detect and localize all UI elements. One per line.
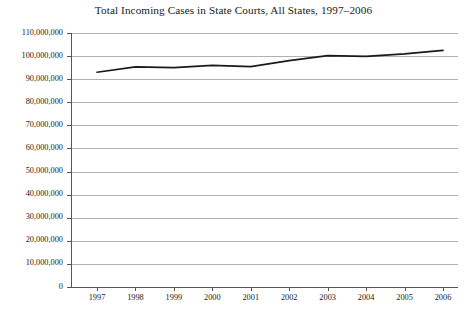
x-tick-label: 2001 bbox=[229, 294, 273, 302]
y-tick-label: 20,000,000 bbox=[0, 236, 63, 244]
y-tick-label: 50,000,000 bbox=[0, 167, 63, 175]
y-tick-label: 30,000,000 bbox=[0, 213, 63, 221]
y-tick-label: 90,000,000 bbox=[0, 75, 63, 83]
data-series-line bbox=[97, 50, 443, 72]
y-tick-label: 60,000,000 bbox=[0, 144, 63, 152]
y-tick-label: 100,000,000 bbox=[0, 52, 63, 60]
y-tick-label: 110,000,000 bbox=[0, 29, 63, 37]
x-tick-label: 1999 bbox=[152, 294, 196, 302]
x-tick-label: 2002 bbox=[267, 294, 311, 302]
y-tick-label: 0 bbox=[0, 283, 63, 291]
x-tick-label: 2006 bbox=[421, 294, 465, 302]
y-tick-label: 10,000,000 bbox=[0, 259, 63, 267]
x-tick-label: 1998 bbox=[113, 294, 157, 302]
gridlines-group bbox=[71, 34, 458, 288]
y-tick-label: 40,000,000 bbox=[0, 190, 63, 198]
line-chart-plot bbox=[0, 0, 467, 324]
y-tick-label: 70,000,000 bbox=[0, 121, 63, 129]
x-tick-label: 2005 bbox=[383, 294, 427, 302]
y-tick-label: 80,000,000 bbox=[0, 98, 63, 106]
y-tick-marks-group bbox=[67, 34, 71, 288]
x-tick-label: 2004 bbox=[344, 294, 388, 302]
x-tick-label: 2000 bbox=[190, 294, 234, 302]
x-tick-label: 1997 bbox=[75, 294, 119, 302]
chart-figure: Total Incoming Cases in State Courts, Al… bbox=[0, 0, 467, 324]
x-tick-label: 2003 bbox=[306, 294, 350, 302]
